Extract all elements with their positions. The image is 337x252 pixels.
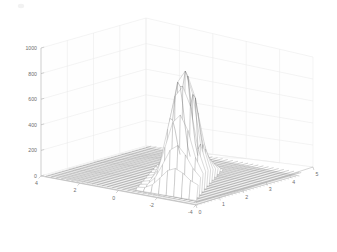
y-tick-label: -4 — [188, 209, 193, 215]
x-tick-label: 5 — [316, 171, 319, 177]
y-tick-label: 0 — [112, 195, 115, 201]
z-tick-label: 0 — [34, 173, 37, 179]
z-tick-label: 200 — [28, 147, 37, 153]
x-tick-label: 4 — [292, 179, 295, 185]
x-tick-label: 3 — [269, 186, 272, 192]
x-tick-label: 1 — [222, 201, 225, 207]
z-tick-label: 600 — [28, 96, 37, 102]
y-tick-label: 2 — [74, 187, 77, 193]
z-tick-label: 400 — [28, 122, 37, 128]
surface-plot: 1000 800 600 400 200 0 4 2 0 -2 -4 0 1 2… — [0, 0, 337, 252]
scan-artifact — [18, 4, 24, 8]
z-tick-label: 1000 — [25, 45, 37, 51]
x-tick-label: 0 — [199, 209, 202, 215]
z-axis-tick-labels: 1000 800 600 400 200 0 — [25, 45, 37, 179]
z-tick-label: 800 — [28, 71, 37, 77]
x-tick-label: 2 — [245, 194, 248, 200]
figure-canvas: 1000 800 600 400 200 0 4 2 0 -2 -4 0 1 2… — [0, 0, 337, 252]
y-tick-label: 4 — [35, 180, 38, 186]
y-tick-label: -2 — [149, 202, 154, 208]
